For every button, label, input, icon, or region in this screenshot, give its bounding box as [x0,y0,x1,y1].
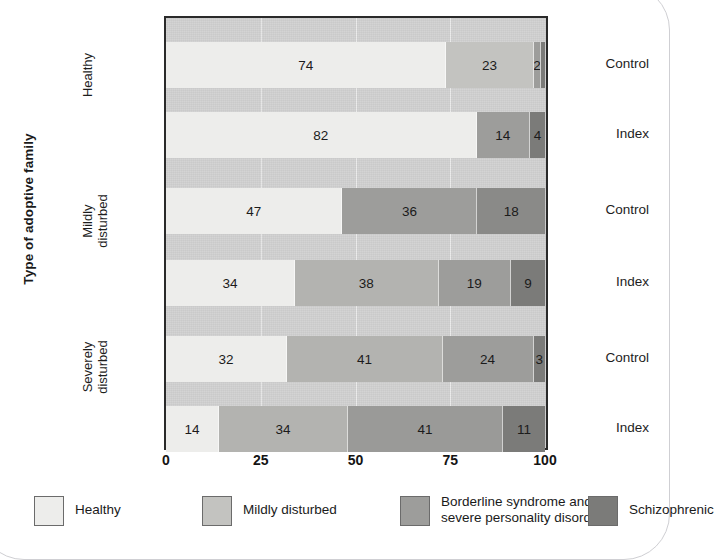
plot-area: 74232821444736183438199324124314344111 [164,16,548,450]
x-tick-25: 25 [231,452,291,468]
y-axis-title: Type of adoptive family [21,79,47,339]
group-label-severely-disturbed: Severely disturbed [80,292,110,442]
bar-segment[interactable]: 4 [530,112,545,158]
bar-segment[interactable]: 34 [166,260,295,306]
bar-segment-value: 41 [418,422,433,437]
group-label-healthy: Healthy [80,0,110,150]
bar-row[interactable]: 14344111 [166,406,545,452]
bar-segment[interactable] [541,42,545,88]
legend: HealthyMildly disturbedBorderline syndro… [34,494,634,536]
bar-segment[interactable]: 41 [348,406,503,452]
bar-segment-value: 24 [480,352,495,367]
bar-segment-value: 19 [467,276,482,291]
legend-label: Mildly disturbed [243,494,337,518]
x-tick-0: 0 [136,452,196,468]
bar-segment[interactable]: 14 [477,112,530,158]
bar-segment[interactable]: 24 [443,336,534,382]
legend-item[interactable]: Healthy [34,494,121,526]
bar-row[interactable]: 82144 [166,112,545,158]
legend-item[interactable]: Borderline syndrome and severe personali… [400,494,603,526]
bar-segment[interactable]: 23 [446,42,533,88]
legend-swatch [34,496,64,526]
bar-segment-value: 11 [517,422,531,437]
bar-segment[interactable]: 19 [439,260,511,306]
bar-segment-value: 14 [495,128,510,143]
legend-label: Schizophrenic [629,494,714,518]
x-tick-75: 75 [420,452,480,468]
bar-segment-value: 2 [534,58,541,73]
x-tick-100: 100 [515,452,575,468]
legend-swatch [202,496,232,526]
bar-segment-value: 4 [534,128,542,143]
bar-segment[interactable]: 18 [477,188,545,234]
bar-segment-value: 14 [185,422,200,437]
bar-segment-value: 23 [482,58,497,73]
bar-segment-value: 18 [504,204,519,219]
bar-segment[interactable]: 11 [503,406,545,452]
bar-segment[interactable]: 2 [534,42,542,88]
bar-segment-value: 9 [524,276,532,291]
bar-segment-value: 74 [298,58,313,73]
bar-segment-value: 34 [275,422,290,437]
bar-segment[interactable]: 74 [166,42,446,88]
group-label-mildly-disturbed: Mildly disturbed [80,146,110,296]
x-axis-tick-labels: 0255075100 [164,452,548,474]
bar-row[interactable]: 3241243 [166,336,545,382]
x-tick-50: 50 [326,452,386,468]
bar-segment[interactable]: 3 [534,336,545,382]
bar-segment[interactable]: 82 [166,112,477,158]
bar-segment[interactable]: 38 [295,260,439,306]
bar-segment-value: 32 [219,352,234,367]
bar-segment-value: 82 [313,128,328,143]
legend-swatch [588,496,618,526]
bar-segment-value: 34 [222,276,237,291]
legend-label: Borderline syndrome and severe personali… [441,494,603,526]
bar-segment[interactable]: 34 [219,406,348,452]
bar-segment[interactable]: 41 [287,336,442,382]
bar-segment[interactable]: 14 [166,406,219,452]
legend-swatch [400,496,430,526]
bar-row[interactable]: 473618 [166,188,545,234]
bar-segment[interactable]: 47 [166,188,342,234]
bar-row[interactable]: 74232 [166,42,545,88]
legend-label: Healthy [75,494,121,518]
bar-segment-value: 41 [357,352,372,367]
bar-segment[interactable]: 32 [166,336,287,382]
legend-item[interactable]: Schizophrenic [588,494,714,526]
legend-item[interactable]: Mildly disturbed [202,494,337,526]
bar-segment-value: 36 [402,204,417,219]
bar-segment-value: 47 [246,204,261,219]
bar-row[interactable]: 3438199 [166,260,545,306]
bar-segment[interactable]: 9 [511,260,545,306]
bar-segment-value: 3 [536,352,544,367]
bar-segment-value: 38 [359,276,374,291]
bar-segment[interactable]: 36 [342,188,477,234]
